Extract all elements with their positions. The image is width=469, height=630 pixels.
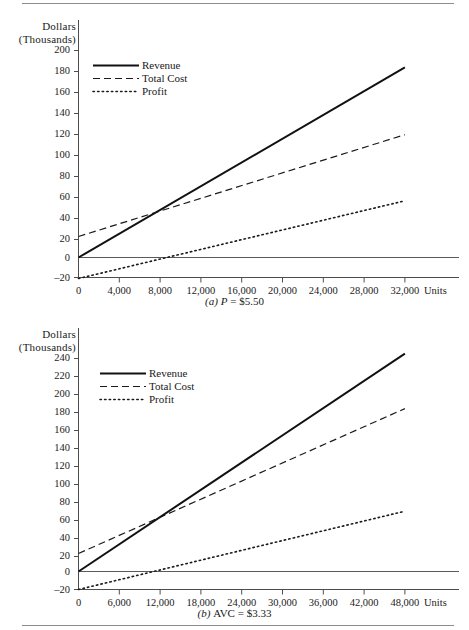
chart-b-caption-symbol: AVC <box>213 607 235 619</box>
top-divider-rule <box>22 3 454 4</box>
chart-a-series-revenue <box>79 67 405 257</box>
chart-a-legend-label-profit: Profit <box>142 86 167 97</box>
chart-b-caption: (b) AVC = $3.33 <box>0 607 469 619</box>
figure-page: Dollars (Thousands) <box>0 0 469 630</box>
chart-a-caption-rest: = $5.50 <box>227 295 263 307</box>
chart-b-legend-label-profit: Profit <box>149 394 174 405</box>
chart-a-ytick-label-120: 120 <box>36 129 70 140</box>
chart-a-series-total-cost <box>79 135 405 237</box>
chart-b: Dollars (Thousands) <box>0 318 469 618</box>
chart-b-ytick-label-160: 160 <box>36 425 70 436</box>
chart-b-legend-label-revenue: Revenue <box>149 368 187 379</box>
chart-b-ytick-label-220: 220 <box>36 371 70 382</box>
chart-a-ytick-label-140: 140 <box>36 108 70 119</box>
chart-b-ytick-label-0: 0 <box>36 567 70 578</box>
chart-a-x-ticks <box>119 278 405 283</box>
chart-a-ytick-label-40: 40 <box>36 213 70 224</box>
chart-b-ytick-label-140: 140 <box>36 443 70 454</box>
chart-b-caption-rest: = $3.33 <box>235 607 271 619</box>
chart-b-caption-label: (b) <box>198 607 211 619</box>
chart-a-ytick-label-100: 100 <box>36 150 70 161</box>
chart-b-ytick-label-120: 120 <box>36 461 70 472</box>
chart-b-plot <box>0 318 469 618</box>
chart-a-plot <box>0 8 469 308</box>
chart-a-y-ticks <box>74 51 79 278</box>
chart-b-series-profit <box>79 511 405 589</box>
chart-a-ytick-label-80: 80 <box>36 171 70 182</box>
chart-b-ytick-label-200: 200 <box>36 389 70 400</box>
chart-b-legend-label-total-cost: Total Cost <box>149 381 194 392</box>
chart-a-ytick-label-180: 180 <box>36 66 70 77</box>
chart-a-series-profit <box>79 201 405 279</box>
chart-b-ytick-label-240: 240 <box>36 353 70 364</box>
chart-a-ytick-label-200: 200 <box>36 45 70 56</box>
chart-b-series-total-cost <box>79 409 405 554</box>
chart-b-ytick-label-neg20: –20 <box>32 585 70 596</box>
chart-b-x-ticks <box>119 590 405 595</box>
chart-a-ytick-label-neg20: –20 <box>32 273 70 284</box>
chart-a-ytick-label-160: 160 <box>36 87 70 98</box>
chart-a-ytick-label-0: 0 <box>36 253 70 264</box>
chart-a-ytick-label-60: 60 <box>36 192 70 203</box>
chart-b-ytick-label-40: 40 <box>36 533 70 544</box>
bottom-divider-rule <box>22 625 454 626</box>
chart-a-legend-label-total-cost: Total Cost <box>142 73 187 84</box>
chart-b-ytick-label-20: 20 <box>36 551 70 562</box>
chart-b-ytick-label-180: 180 <box>36 407 70 418</box>
chart-a-ytick-label-20: 20 <box>36 234 70 245</box>
chart-b-ytick-label-100: 100 <box>36 479 70 490</box>
chart-a-legend-label-revenue: Revenue <box>142 60 180 71</box>
chart-b-ytick-label-60: 60 <box>36 515 70 526</box>
chart-a-caption-label: (a) <box>205 295 218 307</box>
chart-b-ytick-label-80: 80 <box>36 497 70 508</box>
chart-b-y-ticks <box>74 359 79 590</box>
chart-a: Dollars (Thousands) <box>0 8 469 308</box>
chart-a-caption: (a) P = $5.50 <box>0 295 469 307</box>
